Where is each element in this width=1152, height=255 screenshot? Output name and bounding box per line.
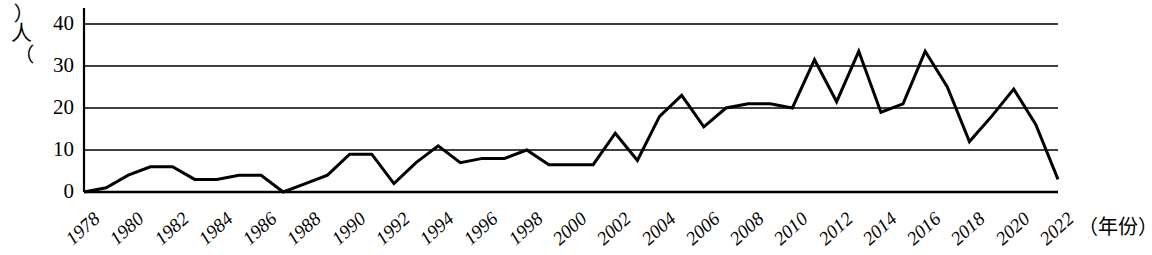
y-tick-label-40: 40 (34, 13, 74, 34)
x-axis-title: （年份） (1078, 217, 1152, 237)
y-tick-label-30: 30 (34, 55, 74, 76)
y-tick-label-20: 20 (34, 97, 74, 118)
y-tick-label-0: 0 (34, 181, 74, 202)
line-chart-figure: ︵ 人 ︶ 010203040 197819801982198419861988… (0, 0, 1152, 255)
data-series-line (84, 51, 1058, 192)
y-tick-label-10: 10 (34, 139, 74, 160)
gridlines-group (84, 24, 1058, 192)
